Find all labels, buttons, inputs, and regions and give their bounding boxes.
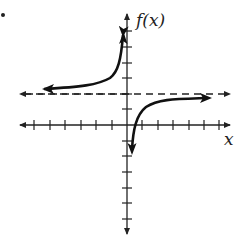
y-axis [122, 14, 132, 234]
bullet-dot [1, 13, 5, 17]
y-axis-label: f(x) [134, 10, 165, 30]
function-graph: f(x) x [0, 0, 238, 243]
x-axis [20, 120, 230, 130]
x-axis-label: x [224, 129, 234, 149]
curve-left-branch [44, 35, 123, 89]
curve-right-branch [132, 98, 205, 150]
